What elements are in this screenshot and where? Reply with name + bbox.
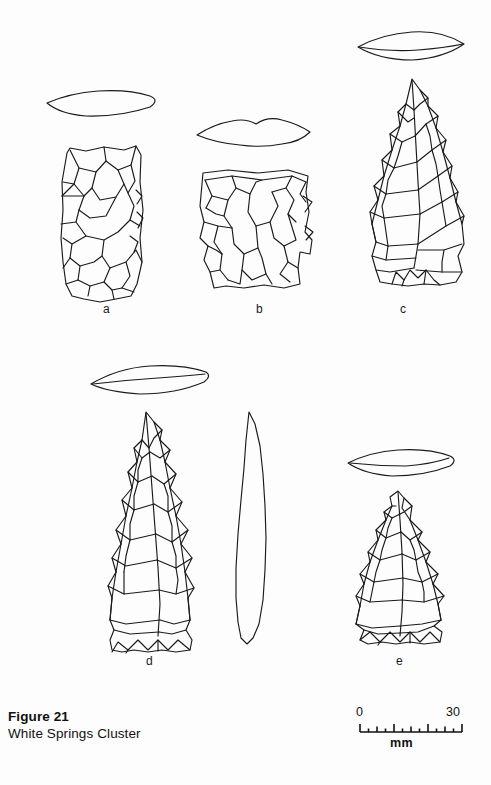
scale-max-label: 30	[446, 706, 460, 719]
figure-title: White Springs Cluster	[8, 725, 238, 742]
artifact-c-cross-section	[358, 32, 464, 60]
artifact-d-plan-view	[108, 412, 194, 653]
artifact-b-plan-view	[200, 170, 313, 288]
artifact-d-cross-section	[91, 366, 209, 394]
artifact-d-edge-view	[236, 412, 266, 644]
artifact-e-cross-section	[348, 450, 454, 476]
figure-number: Figure 21	[8, 708, 238, 725]
artifact-label-d: d	[146, 655, 153, 667]
artifact-b-cross-section	[197, 119, 310, 147]
artifact-e-plan-view	[356, 491, 444, 645]
artifact-a-cross-section	[47, 91, 155, 117]
artifact-a-plan-view	[61, 146, 143, 302]
scale-min-label: 0	[356, 706, 363, 719]
artifact-label-b: b	[256, 303, 263, 315]
artifact-c-plan-view	[370, 79, 464, 286]
artifact-label-c: c	[400, 303, 406, 315]
scale-unit-label: mm	[390, 737, 413, 750]
figure-plate: a b c d e Figure 21 White Springs Cluste…	[0, 0, 491, 785]
artifact-label-e: e	[396, 655, 403, 667]
figure-caption: Figure 21 White Springs Cluster	[8, 708, 238, 743]
scale-bar-ruler	[352, 720, 477, 738]
artifact-label-a: a	[103, 303, 110, 315]
artifact-plate-drawing	[0, 0, 491, 785]
scale-bar: 0 30 mm	[352, 706, 477, 752]
